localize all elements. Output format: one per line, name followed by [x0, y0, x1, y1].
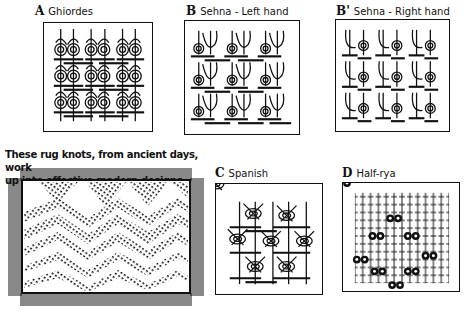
ghiordes-knot-icon — [44, 23, 152, 131]
panel-d-label: DHalf-rya — [342, 166, 396, 180]
panel-a-label: AGhiordes — [35, 4, 93, 18]
panel-c-label: CSpanish — [215, 166, 268, 180]
panel-c-letter: C — [215, 166, 225, 180]
sehna-left-knot-icon — [185, 21, 299, 134]
rug-illustration — [8, 168, 204, 306]
sehna-left-knot-diagram — [184, 20, 300, 135]
panel-b-prime-name: Sehna - Right hand — [354, 6, 450, 17]
panel-b-prime-letter: B' — [336, 4, 350, 18]
rug-icon — [8, 168, 204, 306]
sehna-right-knot-diagram — [335, 19, 450, 132]
panel-d-name: Half-rya — [356, 168, 395, 179]
panel-b-name: Sehna - Left hand — [200, 6, 288, 17]
spanish-knot-icon — [216, 184, 322, 294]
panel-c-name: Spanish — [229, 168, 269, 179]
sehna-right-knot-icon — [336, 20, 449, 131]
panel-a-letter: A — [35, 4, 44, 18]
spanish-knot-diagram — [215, 183, 323, 295]
panel-b-prime-label: B'Sehna - Right hand — [336, 4, 450, 18]
panel-d-letter: D — [342, 166, 352, 180]
panel-b-label: BSehna - Left hand — [186, 4, 289, 18]
half-rya-knot-icon — [343, 183, 459, 291]
half-rya-knot-diagram — [342, 182, 460, 292]
panel-a-name: Ghiordes — [48, 6, 93, 17]
ghiordes-knot-diagram — [43, 22, 153, 132]
panel-b-letter: B — [186, 4, 196, 18]
